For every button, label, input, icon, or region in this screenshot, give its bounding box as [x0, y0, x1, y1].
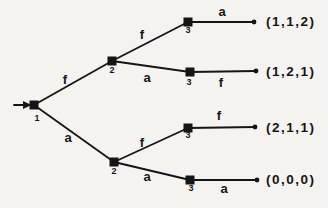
edge-label-n2-top-up: f [140, 28, 144, 41]
edge-n2-top-up [112, 22, 188, 61]
edge-label-n3-1-leaf: a [218, 5, 225, 18]
tree-edges [14, 22, 257, 180]
edge-label-n2-bottom-up: f [140, 136, 144, 149]
node-label-3-fourth: 3 [188, 184, 193, 193]
edge-root-up [34, 61, 112, 105]
edge-label-n3-3-leaf: f [217, 109, 221, 122]
leaf-dot-4 [255, 178, 260, 183]
edge-n2-bottom-up [114, 128, 188, 162]
edge-label-n2-bottom-down: a [143, 170, 150, 183]
edge-label-n3-2-leaf: f [219, 76, 223, 89]
edge-label-root-up: f [63, 73, 67, 86]
edge-label-n3-4-leaf: a [220, 182, 227, 195]
outcome-payoff-1: (1,1,2) [266, 15, 316, 29]
edge-n2-top-down [112, 61, 190, 72]
leaf-dot-3 [253, 125, 258, 130]
node-label-root: 1 [34, 114, 39, 123]
node-label-2-bottom: 2 [111, 167, 116, 176]
edge-n2-bottom-down [114, 162, 190, 180]
edge-label-root-down: a [64, 131, 71, 144]
outcome-payoff-4: (0,0,0) [266, 173, 316, 187]
game-tree-figure: f a f a f a a f f a 1 2 2 3 3 3 3 (1,1,2… [0, 0, 328, 208]
leaf-dot-1 [252, 20, 257, 25]
decision-node-root [30, 101, 39, 110]
edge-n3-3-leaf [188, 127, 255, 128]
leaf-dot-2 [254, 69, 259, 74]
tree-node-marks [23, 18, 259, 185]
node-label-2-top: 2 [109, 66, 114, 75]
outcome-payoff-2: (1,2,1) [266, 65, 316, 79]
edge-n3-2-leaf [190, 71, 256, 72]
outcome-payoff-3: (2,1,1) [266, 121, 316, 135]
decision-node-3-second [186, 68, 195, 77]
node-label-3-third: 3 [185, 131, 190, 140]
edge-label-n2-top-down: a [143, 71, 150, 84]
node-label-3-first: 3 [185, 26, 190, 35]
node-label-3-second: 3 [186, 78, 191, 87]
edge-root-down [34, 105, 114, 162]
